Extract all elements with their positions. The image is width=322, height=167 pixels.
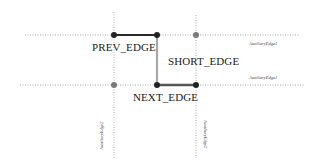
- edge-diagram-svg: [0, 0, 322, 167]
- aux-edge-label-top: AuxiliaryEdge1: [249, 41, 277, 46]
- diagram-canvas: PREV_EDGE SHORT_EDGE NEXT_EDGE Auxiliary…: [0, 0, 322, 167]
- node-next-end: [193, 82, 199, 88]
- node-aux-top-right: [193, 32, 199, 38]
- node-aux-bottom-left: [111, 82, 117, 88]
- node-prev-start: [111, 32, 117, 38]
- short-edge-label: SHORT_EDGE: [168, 55, 239, 67]
- node-next-start: [154, 82, 160, 88]
- node-prev-end: [154, 32, 160, 38]
- aux-edge-label-right-vertical: AuxiliaryEdge2: [203, 120, 208, 148]
- aux-edge-label-left-vertical: AuxiliaryEdge2: [99, 122, 104, 150]
- next-edge-label: NEXT_EDGE: [133, 91, 198, 103]
- prev-edge-label: PREV_EDGE: [92, 41, 156, 53]
- aux-edge-label-mid: AuxiliaryEdge1: [249, 75, 277, 80]
